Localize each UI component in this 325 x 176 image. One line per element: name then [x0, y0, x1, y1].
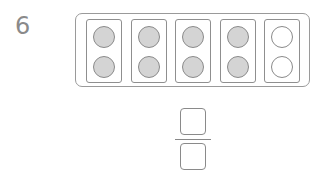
counter-filled — [93, 56, 115, 78]
frame-column-5 — [264, 19, 300, 83]
counter-filled — [227, 26, 249, 48]
numerator-answer-box[interactable] — [180, 108, 206, 135]
frame-column-1 — [86, 19, 122, 83]
counter-filled — [138, 26, 160, 48]
counter-empty — [271, 56, 293, 78]
counter-empty — [271, 26, 293, 48]
counter-filled — [138, 56, 160, 78]
counter-filled — [93, 26, 115, 48]
counter-filled — [182, 26, 204, 48]
frame-column-2 — [131, 19, 167, 83]
problem-number: 6 — [15, 12, 30, 40]
fraction-bar — [175, 139, 211, 140]
counter-filled — [182, 56, 204, 78]
counter-filled — [227, 56, 249, 78]
frame-column-3 — [175, 19, 211, 83]
denominator-answer-box[interactable] — [180, 143, 206, 170]
frame-column-4 — [220, 19, 256, 83]
